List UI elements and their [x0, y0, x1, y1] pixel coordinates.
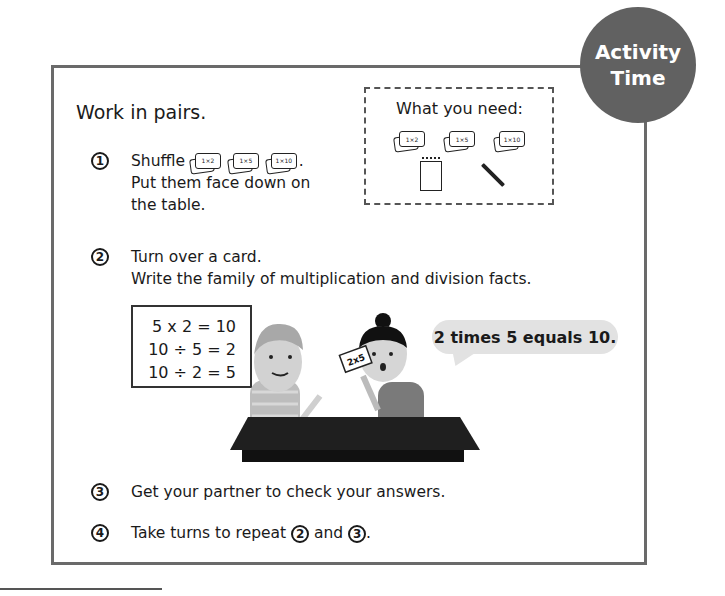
card-set-icon: 1×2 [190, 153, 220, 171]
speech-bubble: 2 times 5 equals 10. [432, 320, 618, 354]
what-you-need-box: What you need: 1×2 1×5 1×10 [364, 87, 554, 205]
card-set-icon: 1×5 [228, 153, 258, 171]
card-set-icon: 1×2 [394, 131, 424, 149]
step-2-number: 2 [91, 248, 109, 266]
step-ref-2: 2 [291, 525, 309, 543]
step-ref-3: 3 [348, 525, 366, 543]
step-1-text: Shuffle 1×2 1×5 1×10. Put them face down… [131, 150, 310, 216]
pencil-icon [481, 163, 505, 187]
step-3-number: 3 [91, 483, 109, 501]
step-3-text: Get your partner to check your answers. [131, 481, 445, 503]
activity-time-badge: Activity Time [580, 7, 696, 123]
card-set-icon: 1×5 [444, 131, 474, 149]
badge-line1: Activity [595, 39, 681, 65]
heading: Work in pairs. [76, 101, 206, 123]
divider-line [0, 588, 162, 590]
step-4-number: 4 [91, 524, 109, 542]
step-2-text: Turn over a card. Write the family of mu… [131, 246, 531, 290]
card-set-icon: 1×10 [494, 131, 524, 149]
what-you-need-title: What you need: [396, 99, 523, 118]
step-4-text: Take turns to repeat 2 and 3. [131, 522, 371, 544]
notepad-icon [420, 161, 442, 191]
card-set-icon: 1×10 [266, 153, 296, 171]
badge-line2: Time [611, 65, 666, 91]
step-1-number: 1 [91, 152, 109, 170]
